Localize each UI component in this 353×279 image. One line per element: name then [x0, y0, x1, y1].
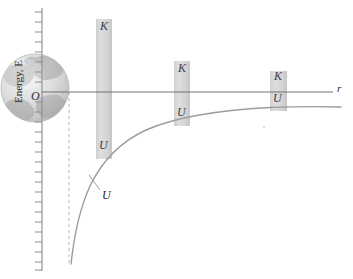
y-axis-label-text: Energy, E [12, 60, 24, 103]
bar-3-potential-label: U [273, 92, 282, 104]
potential-curve-label: U [102, 189, 111, 201]
energy-bar-group [96, 19, 287, 159]
bar-3-kinetic-label: K [274, 70, 282, 82]
origin-label: O [31, 90, 40, 102]
bar-1-potential-label: U [99, 139, 108, 151]
bar-2-kinetic-label: K [178, 62, 186, 74]
bar-1-kinetic-label: K [100, 20, 108, 32]
y-axis-label: Energy, E [13, 60, 24, 103]
bar-2-potential-label: U [177, 106, 186, 118]
y-axis [35, 8, 42, 271]
energy-distance-figure: Energy, E O r K U K U K U U [0, 0, 353, 279]
stray-mark [263, 126, 265, 128]
figure-canvas [0, 0, 353, 279]
x-axis-label: r [337, 83, 341, 94]
